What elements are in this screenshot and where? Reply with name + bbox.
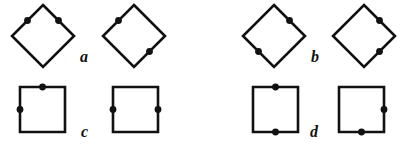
dot-marker-top [272, 84, 279, 91]
diamond-outline [12, 5, 74, 67]
dot-marker-top [39, 84, 46, 91]
dot-marker-lower-right [146, 48, 153, 55]
figure-canvas: abcd [0, 0, 407, 150]
dot-marker-upper-right [376, 17, 383, 24]
shape-b1-diamond [237, 0, 311, 73]
dot-marker-right [155, 106, 162, 113]
shape-a1-diamond [6, 0, 80, 73]
square-outline [20, 87, 65, 132]
square-outline [339, 87, 384, 132]
shape-c2-square [107, 81, 164, 138]
dot-marker-lower-left [255, 48, 262, 55]
shape-c1-square [14, 81, 71, 138]
shape-d1-square [247, 81, 304, 138]
diamond-outline [243, 5, 305, 67]
dot-marker-bottom [272, 129, 279, 136]
diamond-outline [333, 5, 395, 67]
dot-marker-left [17, 106, 24, 113]
dot-marker-upper-right [286, 17, 293, 24]
group-label-b: b [311, 49, 319, 65]
group-label-a: a [80, 49, 88, 65]
dot-marker-upper-left [24, 17, 31, 24]
shape-d2-square [333, 81, 390, 138]
square-outline [113, 87, 158, 132]
group-label-d: d [310, 124, 318, 140]
dot-marker-bottom [358, 129, 365, 136]
shape-a2-diamond [97, 0, 171, 73]
dot-marker-upper-left [115, 17, 122, 24]
square-outline [253, 87, 298, 132]
dot-marker-lower-right [376, 48, 383, 55]
group-label-c: c [81, 124, 88, 140]
dot-marker-left [110, 106, 117, 113]
diamond-outline [103, 5, 165, 67]
dot-marker-right [381, 106, 388, 113]
dot-marker-upper-right [55, 17, 62, 24]
shape-b2-diamond [327, 0, 401, 73]
